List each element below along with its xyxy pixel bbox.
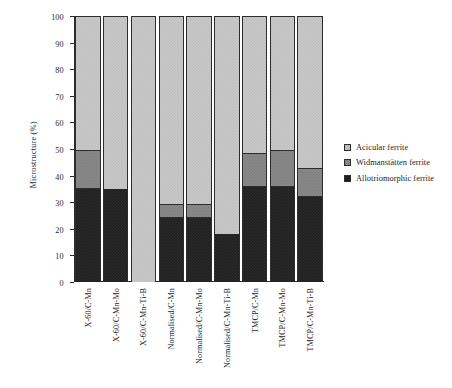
y-axis-tick-label: 0 — [59, 279, 63, 288]
x-axis-tick-label: TMCP/C-Mn — [250, 288, 259, 333]
stacked-bar[interactable] — [75, 16, 100, 282]
bar-segment-acicular — [160, 17, 183, 204]
y-axis-tick-label: 40 — [55, 172, 63, 181]
bar-slot — [296, 16, 324, 282]
x-axis-tick-label: X-60/C-Mn-Mo — [111, 288, 120, 342]
y-axis-tick-label: 20 — [55, 225, 63, 234]
x-label-slot: X-60/C-Mn-Mo — [102, 286, 130, 386]
stacked-bar[interactable] — [186, 16, 211, 282]
legend-label: Allotriomorphic ferrite — [356, 174, 434, 183]
y-axis-tick-label: 70 — [55, 92, 63, 101]
y-axis-tick-label: 50 — [55, 146, 63, 155]
x-label-slot: Normalised/C-Mn-Mo — [185, 286, 213, 386]
bar-segment-widman — [243, 153, 266, 186]
x-axis-tick-label: Normalised/C-Mn — [167, 288, 176, 350]
plot-area: 0102030405060708090100 — [74, 16, 324, 282]
bar-segment-acicular — [243, 17, 266, 153]
legend-swatch-acicular — [344, 144, 351, 151]
bar-segment-acicular — [104, 17, 127, 189]
stacked-bar[interactable] — [214, 16, 239, 282]
bar-segment-allo — [271, 187, 294, 282]
x-label-slot: Normalised/C-Mn — [157, 286, 185, 386]
x-axis-tick-label: TMCP/C-Mn-Ti-B — [306, 288, 315, 351]
y-axis-tick-label: 10 — [55, 252, 63, 261]
bar-segment-widman — [271, 150, 294, 187]
bar-segment-allo — [160, 218, 183, 282]
stacked-bar[interactable] — [103, 16, 128, 282]
bar-segment-acicular — [132, 17, 155, 282]
y-axis-tick-label: 60 — [55, 119, 63, 128]
bar-segment-acicular — [76, 17, 99, 150]
bar-segment-allo — [298, 197, 321, 282]
x-axis-tick-label: TMCP/C-Mn-Mo — [278, 288, 287, 347]
y-axis-tick-label: 80 — [55, 66, 63, 75]
y-axis-tick: 0 — [70, 282, 75, 283]
bar-segment-allo — [104, 189, 127, 282]
x-label-slot: TMCP/C-Mn-Mo — [268, 286, 296, 386]
bar-segment-allo — [215, 234, 238, 282]
legend-item: Widmanstätten ferrite — [344, 158, 452, 168]
bar-segment-allo — [187, 218, 210, 282]
y-axis-tick-label: 90 — [55, 39, 63, 48]
bar-slot — [74, 16, 102, 282]
stacked-bar[interactable] — [270, 16, 295, 282]
x-axis-tick-label: X-60/C-Mn — [83, 288, 92, 328]
legend-label: Widmanstätten ferrite — [356, 158, 430, 167]
legend-label: Acicular ferrite — [356, 143, 408, 152]
bar-slot — [213, 16, 241, 282]
x-axis-labels: X-60/C-MnX-60/C-Mn-MoX-60/C-Mn-Ti-BNorma… — [74, 286, 324, 386]
y-axis-tick-label: 30 — [55, 199, 63, 208]
bar-segment-widman — [76, 150, 99, 190]
bar-segment-acicular — [298, 17, 321, 168]
bar-segment-acicular — [215, 17, 238, 234]
x-label-slot: TMCP/C-Mn — [241, 286, 269, 386]
y-axis-title: Microstructure (%) — [28, 100, 42, 210]
stacked-bar[interactable] — [297, 16, 322, 282]
stacked-bar[interactable] — [242, 16, 267, 282]
bar-slot — [185, 16, 213, 282]
legend-item: Allotriomorphic ferrite — [344, 173, 452, 183]
bar-group — [74, 16, 324, 282]
legend-swatch-allo — [344, 175, 351, 182]
bar-segment-widman — [160, 204, 183, 219]
x-label-slot: X-60/C-Mn-Ti-B — [130, 286, 158, 386]
y-axis-tick-label: 100 — [51, 13, 63, 22]
x-label-slot: TMCP/C-Mn-Ti-B — [296, 286, 324, 386]
bar-slot — [241, 16, 269, 282]
chart-legend: Acicular ferriteWidmanstätten ferriteAll… — [344, 142, 452, 189]
bar-segment-allo — [243, 187, 266, 282]
bar-segment-acicular — [271, 17, 294, 150]
x-axis-tick-label: X-60/C-Mn-Ti-B — [139, 288, 148, 346]
bar-slot — [157, 16, 185, 282]
legend-swatch-widman — [344, 159, 351, 166]
bar-slot — [102, 16, 130, 282]
x-label-slot: X-60/C-Mn — [74, 286, 102, 386]
x-axis-tick-label: Normalised/C-Mn-Mo — [195, 288, 204, 364]
legend-item: Acicular ferrite — [344, 142, 452, 152]
bar-segment-acicular — [187, 17, 210, 204]
bar-segment-widman — [187, 204, 210, 219]
bar-slot — [268, 16, 296, 282]
bar-slot — [130, 16, 158, 282]
x-label-slot: Normalised/C-Mn-Ti-B — [213, 286, 241, 386]
stacked-bar[interactable] — [159, 16, 184, 282]
stacked-bar[interactable] — [131, 16, 156, 282]
microstructure-stacked-bar-chart: Microstructure (%) 010203040506070809010… — [0, 0, 452, 388]
x-axis-tick-label: Normalised/C-Mn-Ti-B — [222, 288, 231, 368]
bar-segment-widman — [298, 168, 321, 197]
bar-segment-allo — [76, 189, 99, 282]
